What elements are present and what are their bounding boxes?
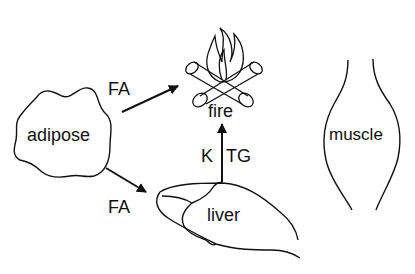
node-label-adipose: adipose xyxy=(27,126,90,144)
edge-label-tg: TG xyxy=(226,147,251,165)
edge-label-k: K xyxy=(201,147,213,165)
node-label-fire: fire xyxy=(208,102,233,120)
edge-label-fa-bottom: FA xyxy=(108,198,130,216)
fire-icon xyxy=(183,28,264,110)
edge-label-fa-top: FA xyxy=(108,80,130,98)
arrow-adipose-to-liver xyxy=(106,168,146,192)
arrow-adipose-to-fire xyxy=(122,86,178,112)
node-label-liver: liver xyxy=(207,206,240,224)
metabolism-diagram: adipose FA fire K TG FA liver muscle xyxy=(0,0,415,274)
node-label-muscle: muscle xyxy=(329,126,383,143)
